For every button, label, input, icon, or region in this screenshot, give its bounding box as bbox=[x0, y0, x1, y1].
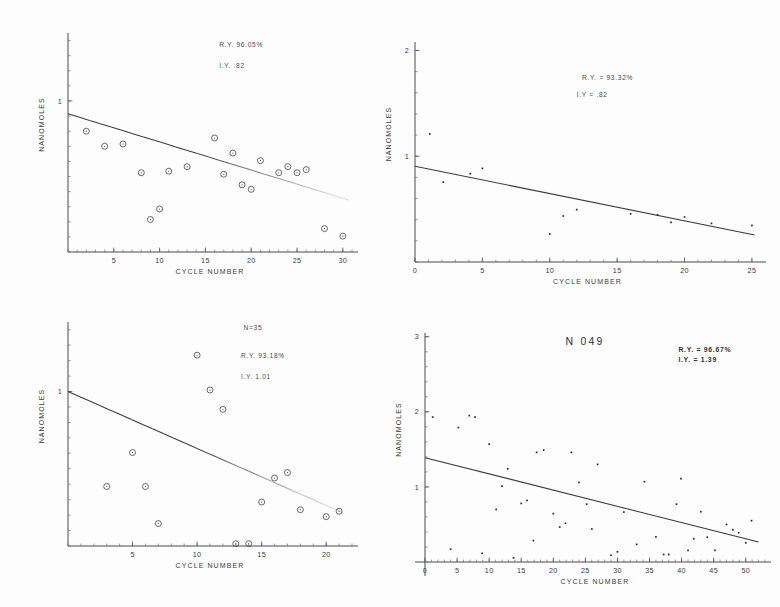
data-point bbox=[644, 481, 646, 483]
chart-svg-top-left: 510152025301R.Y. 96.05%I.Y. .82CYCLE NUM… bbox=[0, 0, 390, 304]
x-axis-title: CYCLE NUMBER bbox=[176, 562, 245, 569]
data-point-center bbox=[326, 516, 327, 517]
data-point bbox=[513, 557, 515, 559]
fit-line-segment bbox=[230, 163, 241, 166]
x-tick-label: 10 bbox=[193, 550, 202, 559]
y-tick-label: 1 bbox=[405, 152, 409, 161]
data-point bbox=[657, 214, 659, 216]
data-point-center bbox=[306, 169, 307, 170]
data-point bbox=[450, 548, 452, 550]
annotation-text: R.Y. 93.18% bbox=[241, 352, 285, 359]
data-point-center bbox=[168, 171, 169, 172]
data-point bbox=[501, 485, 503, 487]
data-point bbox=[668, 554, 670, 556]
x-tick-label: 15 bbox=[201, 256, 210, 265]
data-point-center bbox=[260, 160, 261, 161]
data-point bbox=[726, 524, 728, 526]
fit-line-segment bbox=[122, 130, 133, 133]
data-point bbox=[432, 416, 434, 418]
data-point bbox=[663, 554, 665, 556]
x-axis-title: CYCLE NUMBER bbox=[553, 278, 622, 285]
data-point bbox=[562, 215, 564, 217]
fit-line-segment bbox=[153, 429, 164, 434]
data-point-center bbox=[214, 137, 215, 138]
data-point-center bbox=[141, 172, 142, 173]
data-point bbox=[576, 209, 578, 211]
annotation-text: I.Y. = 1.39 bbox=[678, 356, 717, 363]
data-point bbox=[676, 503, 678, 505]
y-tick-label: 3 bbox=[415, 332, 419, 341]
fit-line-segment bbox=[301, 494, 312, 499]
data-point bbox=[680, 478, 682, 480]
x-axis-title: CYCLE NUMBER bbox=[561, 578, 630, 585]
data-point bbox=[507, 468, 509, 470]
data-point-center bbox=[278, 172, 279, 173]
x-tick-label: 15 bbox=[613, 266, 622, 275]
data-point-center bbox=[300, 509, 301, 510]
x-tick-label: 15 bbox=[257, 550, 266, 559]
y-axis-title: NANOMOLES bbox=[385, 107, 392, 162]
fit-line-segment bbox=[131, 420, 142, 425]
data-point-center bbox=[287, 472, 288, 473]
data-point-center bbox=[158, 523, 159, 524]
data-point bbox=[565, 522, 567, 524]
chart-svg-bottom-left: 51015201N=35R.Y. 93.18%I.Y. 1.01CYCLE NU… bbox=[0, 304, 390, 607]
data-point bbox=[458, 427, 460, 429]
data-point bbox=[536, 452, 538, 454]
y-tick-label: 2 bbox=[405, 46, 409, 55]
x-tick-label: 25 bbox=[581, 566, 590, 575]
data-point-center bbox=[122, 143, 123, 144]
fit-line-segment bbox=[248, 471, 259, 476]
fit-line-segment bbox=[280, 485, 291, 490]
fit-line-segment bbox=[294, 183, 305, 186]
x-tick-label: 45 bbox=[709, 566, 718, 575]
annotation-text: R.Y. 96.05% bbox=[219, 41, 263, 48]
x-tick-label: 10 bbox=[155, 256, 164, 265]
fit-line-segment bbox=[68, 114, 79, 117]
x-tick-label: 5 bbox=[112, 256, 116, 265]
data-point-center bbox=[222, 409, 223, 410]
data-point bbox=[481, 553, 483, 555]
data-point-center bbox=[104, 146, 105, 147]
data-point-center bbox=[242, 184, 243, 185]
x-tick-label: 10 bbox=[485, 566, 494, 575]
chart-panel-bottom-left: 51015201N=35R.Y. 93.18%I.Y. 1.01CYCLE NU… bbox=[0, 304, 390, 607]
data-point bbox=[520, 503, 522, 505]
fit-line-segment bbox=[100, 406, 111, 411]
data-point-center bbox=[339, 511, 340, 512]
data-point-center bbox=[296, 172, 297, 173]
x-tick-label: 25 bbox=[293, 256, 302, 265]
data-point-center bbox=[248, 543, 249, 544]
data-point bbox=[700, 511, 702, 513]
fit-line bbox=[415, 166, 755, 235]
data-point bbox=[738, 532, 740, 534]
x-tick-label: 30 bbox=[613, 566, 622, 575]
data-point bbox=[684, 216, 686, 218]
data-point-center bbox=[274, 477, 275, 478]
data-point bbox=[526, 500, 528, 502]
data-point bbox=[469, 173, 471, 175]
data-point-center bbox=[251, 189, 252, 190]
y-tick-label: 1 bbox=[58, 387, 62, 396]
fit-line-segment bbox=[165, 144, 176, 147]
data-point bbox=[630, 213, 632, 215]
data-point bbox=[482, 168, 484, 170]
fit-line-segment bbox=[258, 475, 269, 480]
fit-line-segment bbox=[121, 415, 132, 420]
fit-line-segment bbox=[110, 410, 121, 415]
x-tick-label: 40 bbox=[677, 566, 686, 575]
fit-line-segment bbox=[111, 127, 122, 130]
chart-panel-top-left: 510152025301R.Y. 96.05%I.Y. .82CYCLE NUM… bbox=[0, 0, 390, 304]
data-point-center bbox=[232, 153, 233, 154]
chart-panel-bottom-right: 05101520253035404550123R.Y. = 96.67%I.Y.… bbox=[390, 304, 780, 607]
y-tick-label: 1 bbox=[58, 97, 62, 106]
x-tick-label: 0 bbox=[413, 266, 417, 275]
y-axis-title: NANOMOLES bbox=[38, 97, 45, 152]
data-point-center bbox=[150, 219, 151, 220]
data-point bbox=[549, 233, 551, 235]
data-point bbox=[468, 415, 470, 417]
data-point bbox=[543, 449, 545, 451]
fit-line-segment bbox=[133, 134, 144, 137]
x-tick-label: 10 bbox=[545, 266, 554, 275]
data-point bbox=[617, 551, 619, 553]
